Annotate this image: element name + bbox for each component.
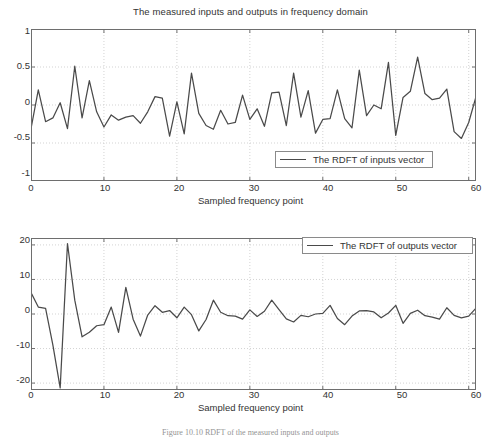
chart-title-inputs: The measured inputs and outputs in frequ…: [0, 6, 501, 17]
xtick-label: 0: [24, 182, 38, 193]
figure-container: The measured inputs and outputs in frequ…: [0, 0, 501, 441]
xtick-label: 60: [469, 182, 483, 193]
xtick-label: 40: [321, 182, 335, 193]
ytick-label: -10: [3, 339, 30, 350]
chart-panel-inputs: The measured inputs and outputs in frequ…: [0, 0, 501, 212]
ytick-label: -0.5: [5, 131, 30, 142]
xtick-label: 20: [172, 182, 186, 193]
xtick-label: 30: [247, 182, 261, 193]
xtick-label: 20: [172, 389, 186, 400]
figure-caption: Figure 10.10 RDFT of the measured inputs…: [0, 428, 501, 437]
xtick-label: 10: [98, 182, 112, 193]
xaxis-label-outputs: Sampled frequency point: [0, 402, 501, 413]
chart-panel-outputs: 20 10 0 -10 -20 0 10 20 30 40 50 60 Samp…: [0, 212, 501, 417]
ytick-label: 0.5: [8, 60, 30, 71]
ytick-label: 20: [6, 234, 30, 245]
ytick-label: -1: [5, 167, 30, 178]
xtick-label: 50: [395, 389, 409, 400]
ytick-label: -20: [3, 374, 30, 385]
xtick-label: 50: [395, 182, 409, 193]
legend-label: The RDFT of inputs vector: [313, 154, 424, 165]
ytick-label: 0: [8, 96, 30, 107]
legend-outputs[interactable]: The RDFT of outputs vector: [302, 237, 473, 254]
xtick-label: 60: [469, 389, 483, 400]
legend-line-swatch-icon: [280, 159, 306, 160]
plot-area-outputs: [31, 238, 476, 390]
legend-inputs[interactable]: The RDFT of inputs vector: [275, 151, 433, 168]
legend-line-swatch-icon: [307, 245, 333, 246]
ytick-label: 10: [6, 269, 30, 280]
xtick-label: 0: [24, 389, 38, 400]
ytick-label: 0: [6, 304, 30, 315]
ytick-label: 1: [8, 25, 30, 36]
xtick-label: 30: [247, 389, 261, 400]
xtick-label: 40: [321, 389, 335, 400]
xaxis-label-inputs: Sampled frequency point: [0, 195, 501, 206]
legend-label: The RDFT of outputs vector: [340, 240, 457, 251]
xtick-label: 10: [98, 389, 112, 400]
